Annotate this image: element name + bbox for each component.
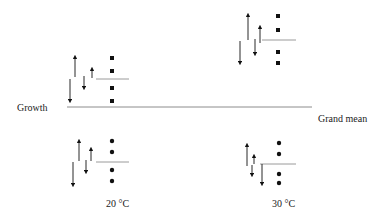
- grand-mean-label: Grand mean: [318, 114, 367, 124]
- square-marker-icon: [110, 69, 114, 73]
- circle-marker-icon: [110, 150, 114, 154]
- diagram-canvas: [0, 0, 380, 221]
- circle-marker-icon: [277, 141, 281, 145]
- circle-marker-icon: [110, 139, 114, 143]
- group-bottom-30C: [247, 141, 296, 185]
- circle-marker-icon: [110, 168, 114, 172]
- square-marker-icon: [110, 99, 114, 103]
- group-top-30C: [240, 14, 296, 65]
- circle-marker-icon: [277, 152, 281, 156]
- circle-marker-icon: [277, 172, 281, 176]
- square-marker-icon: [110, 56, 114, 60]
- square-marker-icon: [276, 50, 280, 54]
- circle-marker-icon: [277, 181, 281, 185]
- y-axis-label-growth: Growth: [17, 103, 48, 113]
- square-marker-icon: [276, 14, 280, 18]
- group-label-20c: 20 °C: [106, 199, 129, 209]
- groups-layer: [70, 14, 296, 185]
- group-top-20C: [70, 56, 129, 103]
- anova-partition-diagram: Growth Grand mean 20 °C 30 °C: [0, 0, 380, 221]
- circle-marker-icon: [110, 179, 114, 183]
- square-marker-icon: [110, 86, 114, 90]
- square-marker-icon: [276, 61, 280, 65]
- square-marker-icon: [276, 28, 280, 32]
- group-label-30c: 30 °C: [272, 199, 295, 209]
- group-bottom-20C: [73, 139, 129, 185]
